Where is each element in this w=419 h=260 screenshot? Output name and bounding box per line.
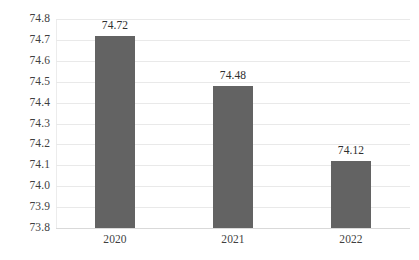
x-axis-tick-label: 2020 bbox=[75, 234, 155, 246]
bar[interactable] bbox=[331, 161, 371, 228]
y-axis-tick-label: 74.5 bbox=[2, 76, 50, 88]
y-axis-tick-label: 74.4 bbox=[2, 97, 50, 109]
y-axis-tick-label: 74.3 bbox=[2, 118, 50, 130]
y-axis-tick-label: 74.8 bbox=[2, 13, 50, 25]
bar-value-label: 74.12 bbox=[316, 145, 386, 157]
y-axis-tick-label: 74.2 bbox=[2, 138, 50, 150]
y-axis-tick-label: 74.1 bbox=[2, 159, 50, 171]
y-axis-tick-label: 73.8 bbox=[2, 222, 50, 234]
y-axis-tick-label: 74.7 bbox=[2, 34, 50, 46]
bar-value-label: 74.48 bbox=[198, 70, 268, 82]
y-axis-tick-label: 74.0 bbox=[2, 180, 50, 192]
x-axis-tick-label: 2021 bbox=[193, 234, 273, 246]
x-axis-tick-labels: 202020212022 bbox=[56, 234, 410, 254]
bar[interactable] bbox=[213, 86, 253, 228]
y-axis-tick-labels: 74.874.774.674.574.474.374.274.174.073.9… bbox=[0, 19, 50, 228]
bar[interactable] bbox=[95, 36, 135, 228]
x-axis-tick-label: 2022 bbox=[311, 234, 391, 246]
gridline bbox=[56, 228, 410, 229]
y-axis-tick-label: 74.6 bbox=[2, 55, 50, 67]
plot-area: 74.7274.4874.12 bbox=[56, 19, 410, 228]
bar-chart: 74.874.774.674.574.474.374.274.174.073.9… bbox=[0, 0, 419, 260]
bar-value-label: 74.72 bbox=[80, 20, 150, 32]
y-axis-tick-label: 73.9 bbox=[2, 201, 50, 213]
